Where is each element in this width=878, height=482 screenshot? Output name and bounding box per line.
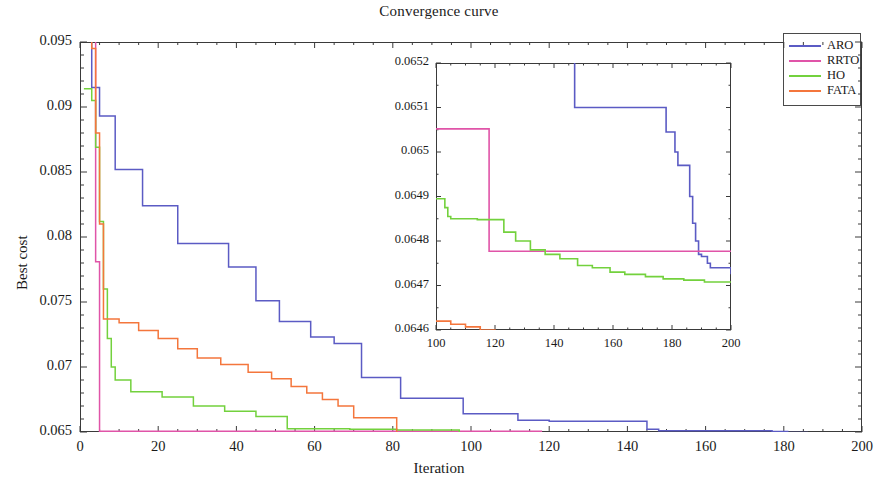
inset-curve-ho xyxy=(436,199,731,282)
inset-curve-aro xyxy=(563,0,731,274)
inset-curves-layer xyxy=(0,0,878,482)
convergence-chart-figure: Convergence curve Best cost Iteration AR… xyxy=(0,0,878,482)
inset-curve-rrto xyxy=(436,129,731,251)
inset-curve-fata xyxy=(436,321,731,345)
